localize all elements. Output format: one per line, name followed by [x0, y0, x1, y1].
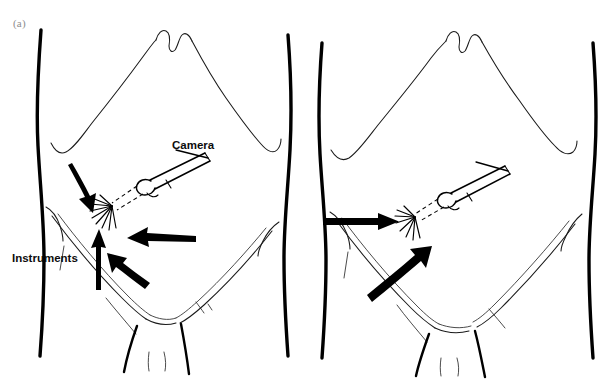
rib-cage-costal-margin-right-b: [482, 42, 577, 154]
torso-flank-right-b: [589, 43, 596, 358]
torso-flank-left-b: [319, 43, 326, 358]
figure-caption: [6, 371, 606, 381]
thigh-inner-left-a: [124, 326, 137, 372]
laparoscope-shaft-lower-b: [456, 174, 510, 202]
arrow-vertical-a: [91, 229, 106, 290]
light-cone-lower-b: [420, 207, 444, 221]
iliac-crest-right-b: [561, 214, 582, 251]
torso-flank-left-a: [37, 30, 44, 356]
panel-b: (b) Camera Instruments: [305, 0, 610, 381]
thigh-crease-left-a: [106, 298, 136, 334]
rib-cage-costal-margin-left-b: [331, 41, 446, 160]
genital-crease-right-a: [164, 352, 166, 371]
pubic-symphysis-curve-b: [435, 328, 469, 333]
iliac-crest-left-a: [46, 207, 63, 241]
panel-b-illustration: [305, 0, 610, 381]
panel-a: (a) Camera Instruments: [0, 0, 305, 381]
instruments-label-a: Instruments: [12, 252, 78, 264]
inguinal-ligament-left-inner-a: [58, 214, 150, 315]
arrow-right-horizontal-a: [127, 227, 196, 247]
thigh-crease-right-dash-a: [208, 304, 212, 310]
iliac-crest-right-a: [258, 222, 279, 256]
arrow-lower-diagonal-a: [107, 253, 150, 289]
figure-root: (a) Camera Instruments: [0, 0, 610, 381]
light-cone-lower-a: [117, 194, 143, 210]
laparoscope-collar-tick-a: [147, 193, 158, 197]
laparoscope-shaft-upper-a: [150, 153, 205, 180]
arrow-upper-left-curved-a: [68, 163, 96, 213]
rib-cage-costal-margin-left-a: [51, 40, 156, 153]
laparoscope-shaft-lower-a: [155, 161, 210, 189]
panel-label-a: (a): [13, 17, 26, 29]
thigh-inner-right-a: [181, 324, 189, 374]
light-cone-upper-a: [112, 186, 137, 203]
thigh-crease-left-b: [397, 305, 427, 342]
laparoscope-collar-a: [136, 180, 155, 195]
xiphoid-notch-a: [156, 30, 192, 51]
rib-cage-costal-margin-right-a: [192, 41, 281, 152]
panel-a-illustration: [0, 0, 305, 381]
arrow-lower-diagonal-b: [367, 246, 432, 302]
inguinal-ligament-right-outer-a: [180, 231, 272, 323]
thigh-inner-left-b: [416, 334, 429, 376]
camera-label-a: Camera: [172, 139, 214, 151]
laparoscope-collar-tick-b: [448, 206, 459, 210]
laparoscope-shaft-upper-b: [451, 166, 505, 193]
inguinal-ligament-right-inner-b: [473, 221, 569, 322]
pubic-symphysis-curve-a: [146, 319, 176, 324]
xiphoid-notch-b: [446, 31, 482, 52]
torso-flank-right-a: [284, 35, 291, 356]
genital-crease-left-a: [148, 352, 149, 371]
pubic-symphysis-curve-inner-a: [150, 315, 176, 319]
light-burst-rays-b: [395, 206, 420, 240]
instruments-leader-b: [344, 252, 348, 278]
laparoscope-collar-b: [437, 193, 456, 208]
light-cone-upper-b: [415, 199, 438, 214]
pubic-symphysis-curve-inner-b: [439, 324, 471, 328]
iliac-crest-left-b: [330, 212, 350, 249]
inguinal-ligament-left-inner-b: [342, 218, 439, 324]
